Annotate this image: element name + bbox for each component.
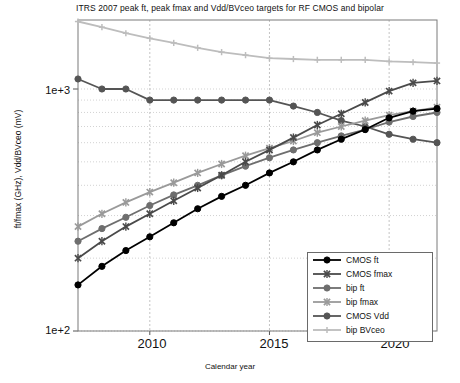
legend-swatch-plus-icon: [312, 324, 342, 336]
series-bip-bvceo: [75, 18, 440, 66]
legend-item-bip-fmax[interactable]: bip fmax: [308, 295, 432, 309]
legend-swatch-circle-icon: [312, 282, 342, 294]
legend[interactable]: CMOS ftCMOS fmaxbip ftbip fmaxCMOS Vddbi…: [307, 252, 433, 342]
legend-label: CMOS Vdd: [346, 310, 389, 322]
legend-swatch-x-icon: [312, 296, 342, 308]
legend-item-cmos-ft[interactable]: CMOS ft: [308, 253, 432, 267]
series-cmos-vdd: [75, 76, 440, 146]
legend-label: bip ft: [346, 282, 364, 294]
legend-label: bip fmax: [346, 296, 378, 308]
legend-item-bip-ft[interactable]: bip ft: [308, 281, 432, 295]
legend-label: CMOS fmax: [346, 268, 392, 280]
legend-swatch-circle-icon: [312, 310, 342, 322]
legend-swatch-circle-icon: [312, 254, 342, 266]
series-cmos-fmax: [75, 77, 440, 262]
legend-label: CMOS ft: [346, 254, 379, 266]
legend-swatch-x-icon: [312, 268, 342, 280]
legend-item-cmos-vdd[interactable]: CMOS Vdd: [308, 309, 432, 323]
legend-label: bip BVceo: [346, 324, 385, 336]
figure: ITRS 2007 peak ft, peak fmax and Vdd/BVc…: [0, 0, 460, 383]
legend-item-bip-bvceo[interactable]: bip BVceo: [308, 323, 432, 337]
series-layer: [75, 18, 440, 288]
legend-item-cmos-fmax[interactable]: CMOS fmax: [308, 267, 432, 281]
